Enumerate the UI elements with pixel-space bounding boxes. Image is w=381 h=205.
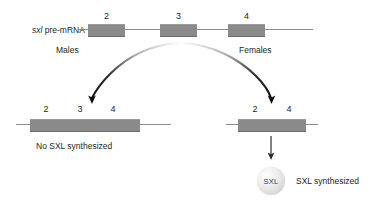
translation-arrow: [258, 136, 284, 162]
pre-mrna-label-suffix: pre-mRNA: [42, 25, 85, 35]
male-mrna-bar: [30, 119, 140, 132]
pre-mrna-exon-number-2: 2: [88, 12, 125, 21]
pre-mrna-exon-box-2: [88, 24, 125, 37]
sxl-protein-label: SXL: [264, 177, 279, 186]
female-mrna-exon-number-2: 2: [245, 105, 265, 114]
male-splicing-arrow-path: [92, 43, 178, 98]
pre-mrna-exon-number-3: 3: [160, 12, 197, 21]
female-mrna-exon-number-4: 4: [279, 105, 299, 114]
female-outcome-label: SXL synthesized: [296, 177, 359, 186]
splicing-diagram: sxl pre-mRNA 2 3 4: [0, 0, 381, 205]
females-label: Females: [239, 46, 272, 55]
sxl-protein-sphere: SXL: [257, 167, 285, 195]
gene-name-label: sxl: [32, 25, 42, 35]
male-mrna-exon-number-4: 4: [103, 105, 123, 114]
males-label: Males: [56, 46, 79, 55]
pre-mrna-exon-box-4: [228, 24, 265, 37]
pre-mrna-exon-box-3: [160, 24, 197, 37]
pre-mrna-label: sxl pre-mRNA: [32, 26, 85, 35]
female-mrna-bar: [238, 119, 306, 132]
male-mrna-exon-number-2: 2: [36, 105, 56, 114]
pre-mrna-exon-number-4: 4: [228, 12, 265, 21]
male-outcome-label: No SXL synthesized: [36, 142, 112, 151]
male-mrna-exon-number-3: 3: [70, 105, 90, 114]
